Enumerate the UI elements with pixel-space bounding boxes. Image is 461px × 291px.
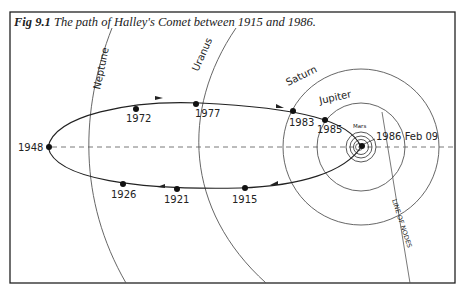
direction-arrow-icon [270, 181, 278, 185]
halley-comet-figure: Fig 9.1 The path of Halley's Comet betwe… [0, 0, 461, 291]
figure-label: Fig 9.1 [14, 15, 51, 29]
saturn-label: Saturn [284, 63, 318, 87]
year-label-1948: 1948 [18, 142, 43, 153]
jupiter-label: Jupiter [317, 88, 353, 106]
position-dot-1915 [242, 185, 248, 191]
neptune-label: Neptune [91, 46, 111, 90]
year-label-1921: 1921 [164, 194, 189, 205]
figure-frame [10, 12, 455, 283]
line-of-nodes-label: LINE OF NODES [390, 198, 413, 249]
orbit-diagram: LINE OF NODES Neptune Uranus Saturn Jupi… [0, 0, 461, 291]
uranus-label: Uranus [190, 36, 214, 73]
direction-arrow-icon [276, 104, 284, 108]
year-label-1915: 1915 [232, 194, 257, 205]
position-dot-1926 [120, 181, 126, 187]
year-label-1977: 1977 [195, 108, 220, 119]
uranus-orbit [199, 28, 266, 283]
position-dot-1972 [133, 106, 139, 112]
neptune-orbit [89, 28, 126, 283]
position-dot-1983 [290, 108, 296, 114]
position-dot-1985 [322, 117, 328, 123]
figure-caption: Fig 9.1 The path of Halley's Comet betwe… [14, 15, 316, 30]
position-dot-1921 [174, 186, 180, 192]
year-label-1986: 1986 Feb 09 [376, 131, 438, 142]
mars-label: Mars [353, 123, 366, 129]
figure-title: The path of Halley's Comet between 1915 … [54, 15, 316, 29]
year-label-1972: 1972 [126, 113, 151, 124]
year-label-1985: 1985 [317, 124, 342, 135]
position-dot-1977 [193, 101, 199, 107]
year-label-1983: 1983 [289, 117, 314, 128]
direction-arrow-icon [155, 96, 163, 100]
year-label-1926: 1926 [111, 189, 136, 200]
position-dot-1948 [46, 144, 52, 150]
